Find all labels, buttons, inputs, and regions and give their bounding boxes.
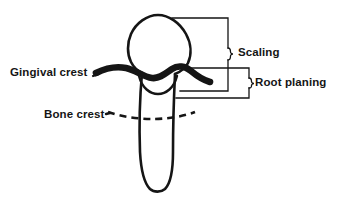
label-bone-crest: Bone crest [44,109,104,121]
scaling-brace-tip [228,48,233,60]
label-gingival-crest: Gingival crest [10,67,87,79]
bone-crest-leader [106,113,110,114]
root-planing-bracket-lower [176,88,249,98]
label-root-planing: Root planing [255,77,326,89]
root-planing-brace-tip [249,78,254,88]
gingival-crest-line [96,67,210,82]
label-scaling: Scaling [238,47,280,59]
tooth-diagram [0,0,339,203]
figure-canvas: Gingival crest Bone crest Scaling Root p… [0,0,339,203]
scaling-bracket [172,18,228,48]
bone-crest-dashed-line [108,112,195,119]
